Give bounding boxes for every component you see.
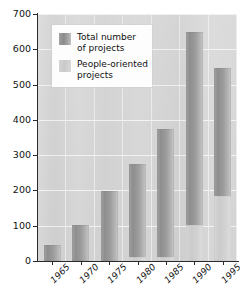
bar-group: [186, 32, 203, 261]
y-axis-tick-label: 300: [0, 150, 31, 160]
y-axis-tick: [33, 261, 38, 262]
bar-total-projects: [129, 164, 146, 261]
x-axis-tick: [138, 261, 139, 265]
y-axis-tick: [33, 14, 38, 15]
x-axis-tick: [166, 261, 167, 265]
y-axis-tick: [33, 85, 38, 86]
gridline-vertical: [208, 14, 209, 261]
bar-people-oriented-projects: [214, 196, 231, 261]
y-axis-tick-label: 100: [0, 221, 31, 231]
y-axis-tick: [33, 155, 38, 156]
y-axis-tick: [33, 49, 38, 50]
x-axis-tick-label: 1995: [220, 263, 243, 286]
y-axis-tick-label: 200: [0, 185, 31, 195]
dark-gray-swatch: [59, 33, 71, 45]
gridline-vertical: [179, 14, 180, 261]
y-axis-tick-label: 700: [0, 9, 31, 19]
chart-legend: Total number of projects People-oriented…: [52, 25, 152, 87]
legend-label-people: People-oriented projects: [77, 59, 148, 80]
x-axis-tick: [194, 261, 195, 265]
bar-group: [214, 68, 231, 261]
x-axis-tick: [109, 261, 110, 265]
legend-item-total: Total number of projects: [59, 32, 136, 53]
y-axis-tick: [33, 190, 38, 191]
y-axis-tick-label: 400: [0, 115, 31, 125]
y-axis-tick: [33, 120, 38, 121]
x-axis-tick-label: 1975: [106, 263, 129, 286]
bar-chart: 0100200300400500600700 19651970197519801…: [0, 0, 244, 302]
bar-people-oriented-projects: [129, 257, 146, 261]
x-axis-tick-label: 1965: [49, 263, 72, 286]
legend-label-total: Total number of projects: [77, 32, 136, 53]
bar-group: [101, 191, 118, 261]
bar-people-oriented-projects: [157, 257, 174, 261]
bar-group: [72, 225, 89, 261]
y-axis-tick: [33, 226, 38, 227]
x-axis-tick-label: 1970: [78, 263, 101, 286]
bar-total-projects: [157, 129, 174, 261]
bar-group: [157, 129, 174, 261]
y-axis-tick-label: 600: [0, 44, 31, 54]
gridline-vertical: [236, 14, 237, 261]
bar-group: [44, 245, 61, 261]
y-axis-tick-label: 0: [0, 256, 31, 266]
bar-total-projects: [72, 225, 89, 261]
y-axis-tick-label: 500: [0, 80, 31, 90]
x-axis-tick: [81, 261, 82, 265]
bar-total-projects: [44, 245, 61, 261]
bar-people-oriented-projects: [186, 225, 203, 261]
x-axis-tick-label: 1980: [135, 263, 158, 286]
x-axis-tick: [52, 261, 53, 265]
x-axis-tick-label: 1985: [163, 263, 186, 286]
x-axis-tick: [223, 261, 224, 265]
y-axis-line: [37, 13, 38, 262]
legend-item-people: People-oriented projects: [59, 59, 148, 80]
bar-total-projects: [101, 191, 118, 261]
bar-group: [129, 164, 146, 261]
x-axis-tick-label: 1990: [191, 263, 214, 286]
light-gray-swatch: [59, 60, 71, 72]
